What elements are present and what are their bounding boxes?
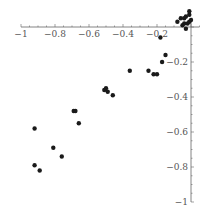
y-tick-label: −1 [175,197,188,207]
y-tick-label: −0.8 [166,162,188,172]
data-point [163,53,167,57]
y-tick-label: −0.6 [166,127,188,137]
data-point [38,168,42,172]
data-point [60,154,64,158]
y-tick-label: −0.2 [166,57,188,67]
data-point [160,60,164,64]
x-tick-label: −1 [14,29,27,39]
data-point [155,72,159,76]
y-axis: −0.2−0.4−0.6−0.8−1 [166,18,194,207]
data-point [32,126,36,130]
data-point [158,35,162,39]
data-point [189,18,193,22]
data-point [128,69,132,73]
data-point [146,69,150,73]
data-point [175,20,179,24]
y-tick-label: −0.4 [166,92,188,102]
x-tick-label: −0.8 [44,29,66,39]
x-axis: −1−0.8−0.6−0.4−0.2 [14,24,199,39]
data-point [73,109,77,113]
x-tick-label: −0.4 [112,29,134,39]
data-point [187,9,191,13]
data-point [106,90,110,94]
scatter-chart: −1−0.8−0.6−0.4−0.2 −0.2−0.4−0.6−0.8−1 [0,0,220,223]
x-tick-label: −0.2 [146,29,168,39]
data-point [111,93,115,97]
data-point [184,27,188,31]
data-point [51,146,55,150]
data-point [77,121,81,125]
x-tick-label: −0.6 [78,29,100,39]
data-point [32,163,36,167]
